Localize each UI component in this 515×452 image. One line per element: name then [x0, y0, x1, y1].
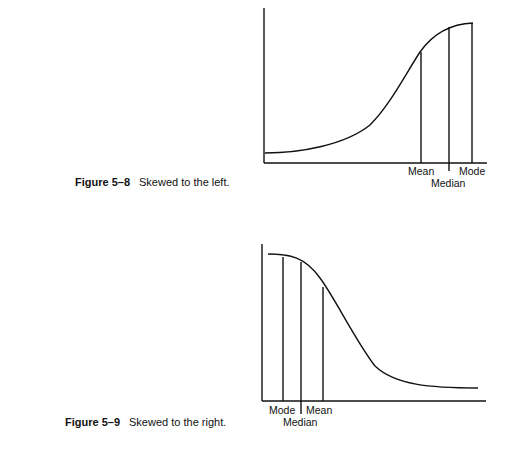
figure-5-8-caption: Figure 5–8Skewed to the left. — [75, 176, 230, 188]
figure-caption-text: Skewed to the right. — [129, 416, 226, 428]
figure-number: Figure 5–8 — [75, 176, 130, 188]
figure-5-9-chart: Mode Mean Median — [0, 0, 515, 452]
mode-label: Mode — [269, 404, 295, 416]
distribution-curve — [268, 254, 478, 388]
mean-label: Mean — [306, 404, 332, 416]
median-label: Median — [283, 416, 318, 428]
figure-caption-text: Skewed to the left. — [139, 176, 230, 188]
figure-number: Figure 5–9 — [65, 416, 120, 428]
figure-5-9-caption: Figure 5–9Skewed to the right. — [65, 416, 226, 428]
